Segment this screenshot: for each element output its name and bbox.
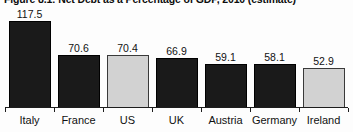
category-label-austria: Austria (201, 113, 250, 128)
category-label-uk: UK (152, 113, 201, 128)
x-axis-line (5, 107, 348, 108)
bar-value-label: 59.1 (201, 51, 250, 63)
bar-slot-france: 70.6 (54, 8, 103, 108)
bar-rect (303, 68, 345, 108)
axis-tick (5, 108, 6, 112)
category-label-france: France (54, 113, 103, 128)
bar-value-label: 66.9 (152, 45, 201, 57)
bar-chart-figure: Figure 8.1: Net Debt as a Percentage of … (0, 0, 353, 132)
chart-title: Figure 8.1: Net Debt as a Percentage of … (4, 0, 353, 5)
bar-value-label: 70.4 (103, 42, 152, 54)
plot-area: 117.5 70.6 70.4 66.9 59.1 58.1 52.9 (0, 8, 353, 108)
axis-tick (54, 108, 55, 112)
axis-tick (299, 108, 300, 112)
bar-slot-italy: 117.5 (5, 8, 54, 108)
category-label-us: US (103, 113, 152, 128)
bar-slot-austria: 59.1 (201, 8, 250, 108)
bar-value-label: 58.1 (250, 51, 299, 63)
bar-slot-us: 70.4 (103, 8, 152, 108)
bar-rect (156, 58, 198, 108)
axis-tick (348, 108, 349, 112)
bar-rect (58, 55, 100, 108)
bar-value-label: 117.5 (5, 8, 54, 20)
category-label-italy: Italy (5, 113, 54, 128)
category-label-ireland: Ireland (299, 113, 348, 128)
bar-slot-germany: 58.1 (250, 8, 299, 108)
axis-tick (250, 108, 251, 112)
category-axis-labels: Italy France US UK Austria Germany Irela… (0, 113, 353, 129)
bar-slot-uk: 66.9 (152, 8, 201, 108)
axis-tick (103, 108, 104, 112)
axis-tick (152, 108, 153, 112)
axis-tick (201, 108, 202, 112)
bar-value-label: 52.9 (299, 55, 348, 67)
category-label-germany: Germany (250, 113, 299, 128)
bar-value-label: 70.6 (54, 42, 103, 54)
bar-rect (107, 55, 149, 108)
bar-rect (205, 64, 247, 108)
bar-rect (254, 64, 296, 108)
bar-rect (9, 21, 51, 108)
bar-slot-ireland: 52.9 (299, 8, 348, 108)
